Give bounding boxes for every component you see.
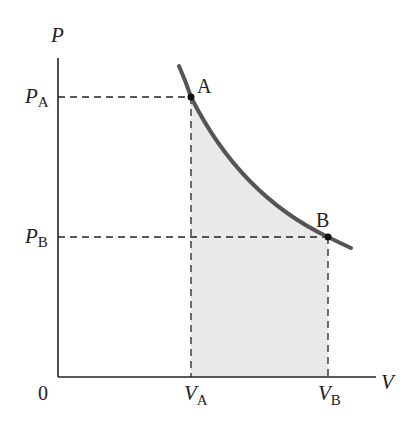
pb-tick-label: PB	[24, 224, 48, 250]
point-a-label: A	[197, 75, 212, 97]
va-tick-label: VA	[184, 381, 208, 408]
origin-label: 0	[38, 382, 48, 404]
point-b	[325, 234, 332, 241]
y-axis-label: P	[50, 23, 64, 47]
work-area-shading	[191, 97, 328, 377]
point-b-label: B	[316, 209, 329, 231]
pa-tick-label: PA	[24, 84, 49, 110]
x-axis-label: V	[381, 370, 396, 394]
point-a	[188, 94, 195, 101]
vb-tick-label: VB	[318, 381, 341, 408]
pv-diagram: A B P V 0 PA PB VA VB	[0, 0, 416, 430]
